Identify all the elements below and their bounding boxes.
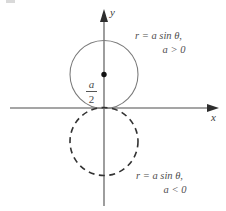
upper-circle-center-dot: [101, 72, 106, 77]
polar-circle-figure: y x a 2 r = a sin θ, a > 0 r = a sin θ, …: [0, 0, 226, 211]
upper-equation-line1: r = a sin θ,: [135, 29, 213, 43]
lower-equation-label: r = a sin θ, a < 0: [136, 169, 214, 197]
lower-equation-line2: a < 0: [136, 183, 214, 197]
fraction-numerator: a: [86, 79, 97, 91]
fraction-bar: [86, 91, 97, 92]
y-axis-label: y: [110, 7, 115, 18]
x-axis-label: x: [211, 112, 216, 123]
lower-equation-line1: r = a sin θ,: [136, 169, 214, 183]
fraction-denominator: 2: [86, 93, 97, 105]
upper-equation-line2: a > 0: [135, 43, 213, 57]
upper-equation-label: r = a sin θ, a > 0: [135, 29, 213, 57]
radius-fraction-label: a 2: [86, 79, 97, 105]
x-axis: [10, 104, 219, 112]
